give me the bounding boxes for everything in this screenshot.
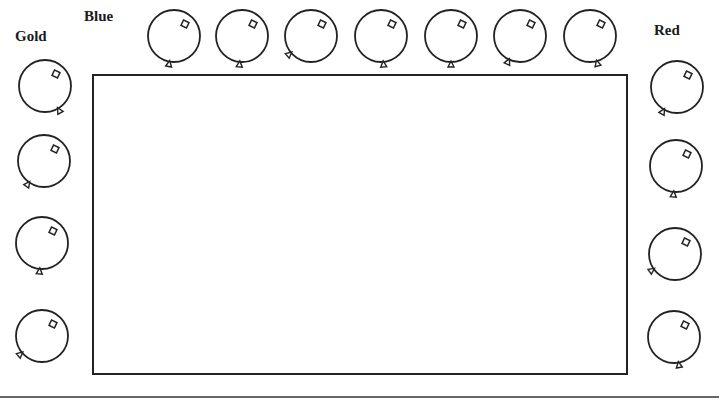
red-balloon-group [648, 61, 703, 368]
blue-balloon-icon [285, 10, 337, 62]
blue-balloon-icon [355, 10, 407, 67]
gold-balloon-icon [16, 310, 68, 362]
blue-balloon-group [148, 10, 616, 67]
red-balloon-icon [648, 311, 700, 368]
blue-balloon-icon [425, 10, 477, 67]
red-balloon-icon [651, 61, 703, 115]
red-balloon-icon [648, 228, 701, 280]
blue-balloon-icon [494, 10, 546, 65]
blue-balloon-icon [564, 10, 616, 67]
gold-balloon-group [16, 60, 71, 362]
blue-balloon-icon [148, 10, 200, 67]
red-balloon-icon [650, 140, 702, 197]
gold-balloon-icon [16, 217, 68, 274]
blue-balloon-icon [216, 10, 268, 67]
balloons-layer [0, 0, 719, 401]
gold-balloon-icon [19, 60, 71, 114]
gold-balloon-icon [18, 135, 70, 188]
